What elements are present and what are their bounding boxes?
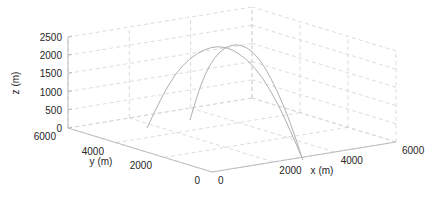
trajectory-curves — [147, 45, 303, 160]
side-wall-grid-line — [252, 80, 396, 124]
trajectory-line — [190, 45, 302, 158]
z-tick-label: 1000 — [40, 87, 63, 98]
x-axis-label: x (m) — [311, 165, 334, 176]
grid-lines — [68, 7, 396, 172]
x-tick-label: 4000 — [341, 155, 364, 166]
back-wall-grid-line — [68, 7, 252, 37]
z-tick-label: 2500 — [40, 32, 63, 43]
side-wall-grid-line — [252, 25, 396, 69]
back-wall-grid-line — [68, 25, 252, 55]
back-wall-grid-line — [68, 98, 252, 128]
z-tick-label: 500 — [45, 105, 62, 116]
y-tick-label: 0 — [194, 175, 200, 186]
y-tick-label: 2000 — [130, 160, 153, 171]
z-tick-label: 0 — [56, 123, 62, 134]
trajectory-line — [147, 47, 303, 160]
z-tick-label: 1500 — [40, 68, 63, 79]
x-axis-line — [212, 142, 396, 172]
x-tick-label: 0 — [218, 175, 224, 186]
x-tick-label: 2000 — [279, 165, 302, 176]
floor-grid-line — [116, 113, 300, 143]
floor-grid-line — [129, 118, 273, 162]
side-wall-grid-line — [252, 98, 396, 142]
y-axis-label: y (m) — [90, 156, 113, 167]
z-tick-label: 2000 — [40, 50, 63, 61]
back-wall-grid-line — [68, 62, 252, 92]
chart-3d-plot: 0500100015002000250002000400060000200040… — [0, 0, 448, 199]
axes — [68, 36, 396, 172]
z-axis-label: z (m) — [10, 72, 21, 95]
side-wall-grid-line — [252, 7, 396, 51]
floor-grid-line — [164, 127, 348, 157]
back-wall-grid-line — [68, 80, 252, 110]
side-wall-grid-line — [252, 43, 396, 87]
x-tick-label: 6000 — [402, 145, 425, 156]
floor-grid-line — [191, 108, 335, 152]
back-wall-grid-line — [68, 43, 252, 73]
y-tick-label: 6000 — [34, 131, 57, 142]
